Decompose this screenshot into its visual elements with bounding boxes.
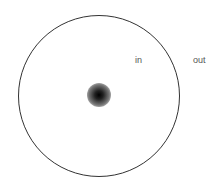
label-out: out: [193, 55, 206, 65]
label-in: in: [135, 55, 142, 65]
center-point: [87, 83, 111, 107]
